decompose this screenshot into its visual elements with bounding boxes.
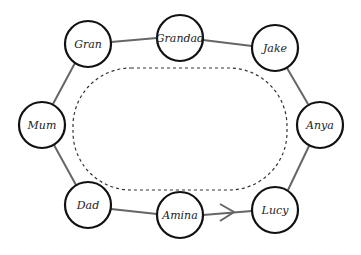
edge-anya-lucy bbox=[288, 146, 309, 190]
edge-jake-anya bbox=[287, 68, 308, 104]
node-label: Jake bbox=[261, 42, 288, 55]
node-label: Amina bbox=[161, 209, 198, 222]
node-label: Dad bbox=[76, 199, 99, 212]
node-gran: Gran bbox=[65, 21, 111, 67]
node-jake: Jake bbox=[252, 25, 298, 71]
node-mum: Mum bbox=[19, 102, 65, 148]
relationship-diagram: Gran Grandad Jake Anya Lucy Amina Dad Mu… bbox=[0, 0, 361, 255]
inner-dashed-boundary bbox=[73, 68, 287, 190]
node-label: Mum bbox=[27, 119, 57, 132]
node-label: Lucy bbox=[261, 204, 290, 217]
node-dad: Dad bbox=[65, 182, 111, 228]
node-grandad: Grandad bbox=[156, 15, 204, 61]
node-label: Gran bbox=[74, 38, 102, 51]
edge-gran-grandad bbox=[111, 38, 157, 42]
node-lucy: Lucy bbox=[252, 187, 298, 233]
node-amina: Amina bbox=[157, 192, 203, 238]
edge-dad-amina bbox=[111, 209, 157, 214]
node-anya: Anya bbox=[297, 102, 343, 148]
edge-grandad-jake bbox=[203, 40, 252, 46]
edge-mum-dad bbox=[54, 145, 76, 185]
edge-gran-mum bbox=[53, 63, 75, 104]
node-label: Grandad bbox=[156, 32, 204, 45]
edge-amina-lucy bbox=[203, 211, 252, 215]
node-label: Anya bbox=[305, 119, 334, 132]
